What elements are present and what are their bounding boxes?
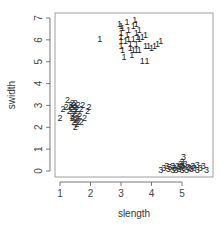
- point-cluster-1: 1: [97, 34, 102, 44]
- point-cluster-1: 1: [123, 36, 128, 46]
- point-cluster-1: 1: [122, 52, 127, 62]
- point-cluster-2: 2: [57, 113, 62, 123]
- point-cluster-2: 2: [71, 100, 76, 110]
- y-tick-label: 3: [33, 102, 44, 108]
- y-tick-label: 6: [33, 37, 44, 43]
- point-cluster-2: 2: [74, 119, 79, 129]
- x-tick-label: 2: [88, 188, 94, 199]
- x-axis-title: slength: [118, 208, 150, 219]
- point-cluster-3: 3: [187, 163, 192, 173]
- x-tick-label: 3: [118, 188, 124, 199]
- y-ticks: 01234567: [33, 15, 50, 174]
- point-cluster-1: 1: [144, 56, 149, 66]
- y-tick-label: 7: [33, 15, 44, 21]
- x-tick-label: 5: [179, 188, 185, 199]
- point-cluster-2: 2: [70, 113, 75, 123]
- point-cluster-3: 3: [178, 159, 183, 169]
- y-tick-label: 0: [33, 168, 44, 174]
- point-cluster-2: 2: [86, 102, 91, 112]
- y-tick-label: 5: [33, 58, 44, 64]
- y-axis-title: swidth: [6, 81, 17, 109]
- point-cluster-1: 1: [135, 32, 140, 42]
- point-cluster-3: 3: [204, 165, 209, 175]
- point-cluster-1: 1: [126, 25, 131, 35]
- y-tick-label: 1: [33, 146, 44, 152]
- point-cluster-1: 1: [143, 30, 148, 40]
- scatter-chart: 12345 01234567 1111111111111111111111111…: [0, 0, 221, 232]
- x-ticks: 12345: [57, 182, 185, 199]
- y-tick-label: 4: [33, 80, 44, 86]
- y-tick-label: 2: [33, 124, 44, 130]
- point-cluster-1: 1: [137, 45, 142, 55]
- point-cluster-1: 1: [158, 36, 163, 46]
- x-tick-label: 1: [57, 188, 63, 199]
- point-cluster-1: 1: [129, 50, 134, 60]
- data-points: 1111111111111111111111111111111111111111…: [57, 15, 208, 176]
- x-tick-label: 4: [149, 188, 155, 199]
